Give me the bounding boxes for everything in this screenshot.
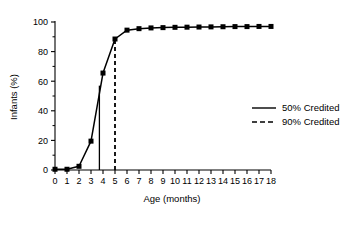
x-tick-label: 18 [266, 176, 276, 186]
data-point-marker [137, 26, 142, 31]
data-point-marker [77, 164, 82, 169]
x-tick-label: 2 [76, 176, 81, 186]
x-tick-label: 10 [170, 176, 180, 186]
x-tick-label: 8 [148, 176, 153, 186]
y-tick-label: 0 [43, 165, 48, 175]
data-point-marker [149, 25, 154, 30]
data-point-marker [257, 24, 262, 29]
x-tick-label: 9 [160, 176, 165, 186]
x-tick-label: 15 [230, 176, 240, 186]
x-tick-label: 7 [136, 176, 141, 186]
y-tick-label: 80 [38, 47, 48, 57]
x-tick-label: 13 [206, 176, 216, 186]
data-point-marker [89, 139, 94, 144]
data-point-marker [125, 28, 130, 33]
x-tick-label: 5 [112, 176, 117, 186]
chart-figure: 020406080100 012345678910111213141516171… [0, 0, 360, 226]
x-tick-label: 1 [64, 176, 69, 186]
x-tick-label: 16 [242, 176, 252, 186]
data-point-marker [269, 24, 274, 29]
data-point-marker [233, 24, 238, 29]
legend-label-50-credited: 50% Credited [282, 102, 340, 113]
x-tick-label: 17 [254, 176, 264, 186]
data-point-marker [101, 71, 106, 76]
data-point-marker [245, 24, 250, 29]
x-tick-label: 14 [218, 176, 228, 186]
data-point-marker [209, 24, 214, 29]
y-tick-label: 60 [38, 77, 48, 87]
x-tick-label: 12 [194, 176, 204, 186]
data-point-marker [185, 25, 190, 30]
data-point-marker [53, 167, 58, 172]
data-point-marker [197, 25, 202, 30]
data-point-marker [65, 167, 70, 172]
x-tick-label: 4 [100, 176, 105, 186]
chart-canvas: 020406080100 012345678910111213141516171… [0, 0, 360, 226]
x-tick-label: 11 [182, 176, 191, 186]
x-tick-label: 6 [124, 176, 129, 186]
x-tick-label: 0 [52, 176, 57, 186]
x-axis-title: Age (months) [143, 193, 200, 204]
data-point-marker [221, 24, 226, 29]
y-tick-label: 40 [38, 106, 48, 116]
y-axis-title: Infants (%) [8, 74, 19, 120]
legend-label-90-credited: 90% Credited [282, 116, 340, 127]
data-point-marker [173, 25, 178, 30]
data-point-marker [161, 25, 166, 30]
x-tick-label: 3 [88, 176, 93, 186]
y-tick-label: 20 [38, 136, 48, 146]
y-tick-label: 100 [33, 17, 48, 27]
